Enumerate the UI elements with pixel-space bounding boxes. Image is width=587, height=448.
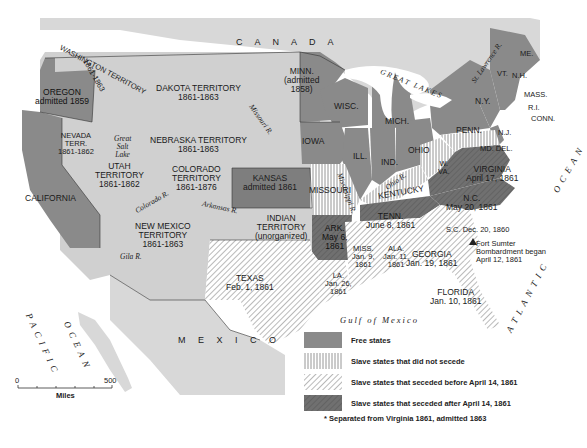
label-virginia: VIRGINIA April 17, 1861 [466,165,518,183]
scale-unit: Miles [56,392,75,400]
legend-label: Slave states that seceded before April 1… [351,378,517,387]
legend-note: * Separated from Virginia 1861, admitted… [324,414,566,423]
label-wisconsin: WISC. [334,102,359,111]
label-indiana: IND. [381,158,398,167]
label-nebraska: NEBRASKA TERRITORY 1861-1863 [150,136,247,154]
label-gulf-of-mexico: Gulf of Mexico [340,316,419,325]
label-dakota: DAKOTA TERRITORY 1861-1863 [156,84,241,102]
label-california: CALIFORNIA [25,194,76,203]
label-pennsylvania: PENN. [456,126,482,135]
label-texas: TEXAS Feb. 1, 1861 [226,274,274,292]
label-new-hampshire: N.H. [512,72,527,80]
legend-swatch-diagonal-hatch [304,374,342,390]
label-arkansas: ARK. May 6, 1861 [322,224,348,251]
label-nevada: NEVADA TERR. 1861-1862 [58,132,94,156]
scale-min: 0 [15,377,19,385]
scale-max: 500 [104,377,117,385]
label-md-del: MD. DEL. [480,145,513,153]
legend-row-seceded-after: Slave states that seceded after April 14… [304,393,566,413]
label-louisiana: LA. Jan. 26, 1861 [325,272,352,296]
scale-bar [18,385,112,388]
map-legend: Free states Slave states that did not se… [304,330,566,423]
label-iowa: IOWA [302,137,324,146]
label-florida: FLORIDA Jan. 10, 1861 [430,288,482,306]
legend-swatch-free [304,332,342,348]
label-great-salt-lake: Great Salt Lake [114,135,131,159]
legend-label: Free states [351,336,391,345]
label-vermont: VT. [497,70,508,78]
legend-label: Slave states that seceded after April 14… [351,399,511,408]
label-rhode-island: R.I. [528,104,540,112]
label-new-jersey: N.J. [498,129,511,137]
label-illinois: ILL. [353,152,367,161]
label-georgia: GEORGIA Jan. 19, 1861 [406,250,458,268]
legend-row-seceded-before: Slave states that seceded before April 1… [304,372,566,392]
label-mississippi: MISS. Jan. 9, 1861 [352,245,375,269]
label-tennessee: TENN. June 8, 1861 [366,212,415,230]
legend-row-free: Free states [304,330,566,350]
label-utah: UTAH TERRITORY 1861-1862 [95,162,144,189]
label-michigan: MICH. [385,117,409,126]
legend-swatch-dark-hatch [304,395,342,411]
label-gila-river: Gila R. [120,253,142,261]
label-north-carolina: N.C. May 20, 1861 [446,194,498,212]
label-canada: C A N A D A [236,38,339,47]
label-connecticut: CONN. [531,115,555,123]
label-new-york: N.Y. [475,97,490,106]
label-west-virginia: W. VA. [438,160,450,176]
label-indian-territory: INDIAN TERRITORY (unorganized) [255,214,307,241]
label-colorado: COLORADO TERRITORY 1861-1876 [172,165,221,192]
label-new-mexico: NEW MEXICO TERRITORY 1861-1863 [135,222,191,249]
legend-row-not-seceded: Slave states that did not secede [304,351,566,371]
label-minnesota: MINN. (admitted 1858) [284,67,319,94]
legend-swatch-vertical-hatch [304,353,342,369]
label-maine: ME. [520,50,533,58]
label-fort-sumter: Fort Sumter Bombardment began April 12, … [476,240,546,264]
label-kansas: KANSAS admitted 1861 [243,174,297,192]
legend-label: Slave states that did not secede [351,357,465,366]
label-massachusetts: MASS. [524,91,547,99]
label-mexico: M E X I C O [178,336,281,345]
label-oregon: OREGON admitted 1859 [35,88,89,106]
label-ohio: OHIO [408,146,430,155]
label-south-carolina: S.C. Dec. 20, 1860 [446,226,509,234]
